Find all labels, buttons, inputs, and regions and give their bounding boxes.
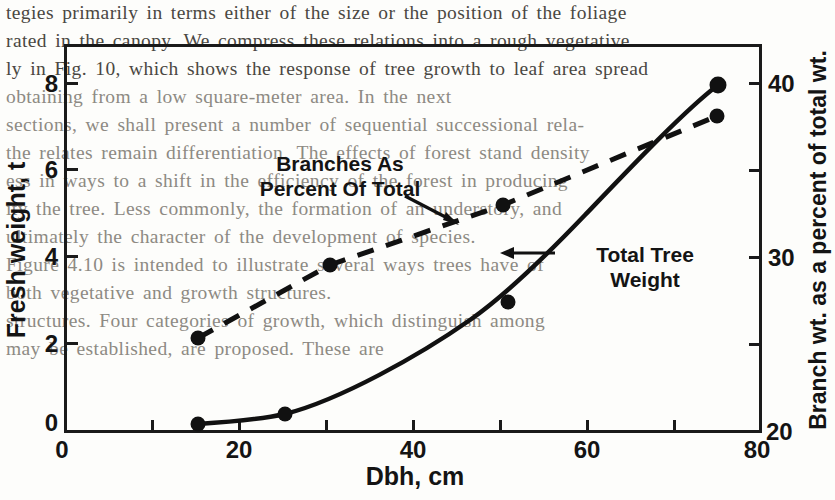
data-point (323, 258, 338, 273)
x-axis-tick-label: 60 (574, 436, 601, 464)
x-axis-tick-label: 80 (744, 436, 771, 464)
y-right-tick-label: 30 (768, 244, 795, 272)
y-right-tick (749, 82, 760, 85)
bg-text-line: rated in the canopy. We compress these r… (0, 30, 835, 52)
data-point (710, 109, 725, 124)
figure-page: tegies primarily in terms either of the … (0, 0, 835, 500)
bg-text-line: tegies primarily in terms either of the … (0, 2, 835, 24)
y-left-tick (67, 82, 78, 85)
y-left-tick-label: 8 (45, 70, 58, 98)
data-point (501, 295, 516, 310)
x-axis-tick (499, 420, 502, 431)
y-right-tick-label: 40 (768, 70, 795, 98)
y-right-tick (749, 256, 760, 259)
x-axis-tick (151, 420, 154, 431)
solid-series-annotation: Total Tree Weight (560, 243, 730, 293)
bg-text-line: may be established, are proposed. These … (0, 338, 835, 360)
dashed-series-annotation: Branches As Percent Of Total (225, 152, 455, 202)
y-left-tick (67, 255, 78, 258)
dashed-series-line (198, 116, 717, 338)
bg-text-line: obtaining from a low square-meter area. … (0, 86, 835, 108)
x-axis-tick (412, 420, 415, 431)
y-right-tick (749, 169, 760, 172)
y-left-tick-label: 0 (45, 409, 58, 437)
y-left-tick (67, 168, 78, 171)
plot-top-border (64, 44, 762, 47)
x-axis-tick (586, 420, 589, 431)
series-branches-percent (191, 109, 725, 346)
x-axis-tick-label: 20 (226, 436, 253, 464)
x-axis-tick (238, 420, 241, 431)
annotation-arrow-solid (500, 247, 555, 259)
y-right-tick (749, 343, 760, 346)
bg-text-line: structures. Four categories of growth, w… (0, 310, 835, 332)
y-axis-right-line (759, 44, 762, 433)
bg-text-line: ly in Fig. 10, which shows the response … (0, 58, 835, 80)
x-axis-tick (673, 420, 676, 431)
bg-text-line: sections, we shall present a number of s… (0, 114, 835, 136)
y-axis-right-title: Branch wt. as a percent of total wt. (805, 50, 832, 430)
x-axis-tick-label: 40 (400, 436, 427, 464)
y-axis-left-line (64, 44, 67, 433)
x-axis-tick (325, 420, 328, 431)
y-left-tick-label: 2 (45, 330, 58, 358)
data-point (496, 198, 511, 213)
data-point (710, 77, 727, 94)
data-point (191, 331, 206, 346)
data-point (278, 407, 293, 422)
y-left-tick-label: 6 (45, 156, 58, 184)
x-axis-tick-label: 0 (55, 436, 68, 464)
x-axis-title: Dbh, cm (366, 462, 465, 491)
y-axis-left-title: Fresh weight, t (2, 162, 31, 338)
y-left-tick-label: 4 (45, 243, 58, 271)
y-left-tick (67, 342, 78, 345)
